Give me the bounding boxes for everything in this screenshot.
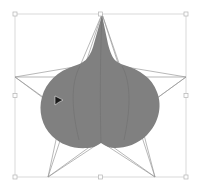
handle-bottom-left[interactable]	[13, 175, 17, 179]
handle-middle-right[interactable]	[184, 94, 188, 98]
handle-middle-left[interactable]	[13, 94, 17, 98]
vector-editor-canvas[interactable]: Selection bounding box	[0, 0, 201, 194]
canvas-artboard[interactable]	[0, 0, 201, 194]
handle-top-right[interactable]	[184, 12, 188, 16]
handle-bottom-center[interactable]	[99, 175, 103, 179]
handle-top-left[interactable]	[13, 12, 17, 16]
handle-bottom-right[interactable]	[184, 175, 188, 179]
handle-top-center[interactable]	[99, 12, 103, 16]
